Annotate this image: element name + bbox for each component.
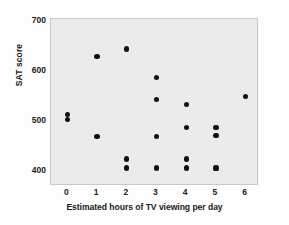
y-axis-tick-labels: 700600500400 — [14, 0, 46, 225]
plot-area — [50, 18, 258, 185]
x-tick-label: 0 — [56, 188, 76, 197]
data-point — [124, 165, 129, 170]
data-point — [213, 133, 218, 138]
data-point — [243, 94, 248, 99]
data-point — [154, 165, 159, 170]
x-tick-label: 6 — [235, 188, 255, 197]
data-point — [213, 125, 218, 130]
data-point — [184, 156, 189, 161]
y-tick-label: 600 — [20, 66, 46, 75]
x-tick-label: 3 — [145, 188, 165, 197]
x-tick-label: 2 — [116, 188, 136, 197]
x-axis-title: Estimated hours of TV viewing per day — [0, 202, 289, 212]
data-point — [65, 117, 70, 122]
data-point — [94, 134, 99, 139]
data-point — [154, 75, 159, 80]
y-tick-label: 400 — [20, 166, 46, 175]
data-point — [124, 156, 129, 161]
x-tick-label: 4 — [175, 188, 195, 197]
y-tick-label: 700 — [20, 16, 46, 25]
data-point — [213, 165, 218, 170]
x-tick-label: 5 — [205, 188, 225, 197]
y-tick-label: 500 — [20, 116, 46, 125]
data-point — [94, 54, 99, 59]
data-point — [154, 97, 159, 102]
data-point — [184, 165, 189, 170]
data-point — [184, 102, 189, 107]
data-point — [184, 125, 189, 130]
data-point — [154, 134, 159, 139]
x-axis-tick-labels: 0123456 — [50, 188, 258, 202]
data-point — [124, 46, 129, 51]
scatter-plot-figure: SAT score 700600500400 0123456 Estimated… — [0, 0, 289, 225]
x-tick-label: 1 — [86, 188, 106, 197]
